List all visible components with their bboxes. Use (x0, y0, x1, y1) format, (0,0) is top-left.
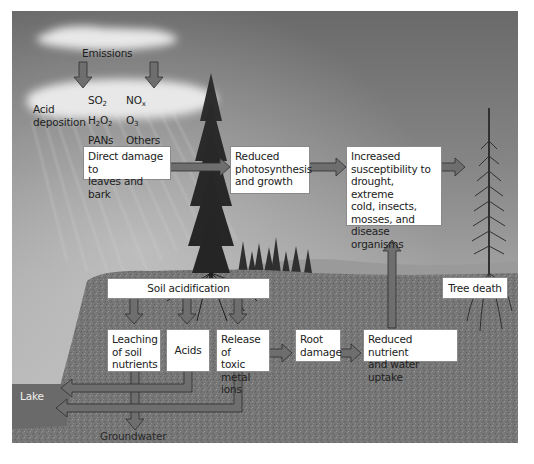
pollutant-pans: PANs (88, 134, 113, 147)
node-increased-susceptibility: Increased susceptibility to drought, ext… (346, 146, 442, 226)
node-root-damage: Root damage (295, 329, 341, 362)
node-reduced-photosynthesis: Reduced photosynthesis and growth (230, 146, 310, 194)
pollutant-so2: SO2 (88, 94, 107, 107)
pollutant-nox: NOx (126, 94, 146, 107)
emissions-label: Emissions (82, 47, 132, 60)
diagram-frame: Emissions Acid deposition SO2 NOx H2O2 O… (12, 11, 518, 443)
node-direct-damage: Direct damage to leaves and bark (83, 146, 171, 180)
pollutant-h2o2: H2O2 (88, 114, 112, 127)
pollutant-others: Others (126, 134, 160, 147)
node-acids: Acids (166, 329, 210, 372)
node-leaching: Leaching of soil nutrients (107, 329, 161, 372)
node-reduced-uptake: Reduced nutrient and water uptake (363, 329, 458, 362)
node-tree-death: Tree death (442, 277, 508, 299)
pollutant-o3: O3 (126, 114, 138, 127)
acid-deposition-label: Acid deposition (33, 103, 86, 128)
groundwater-label: Groundwater (100, 430, 166, 443)
lake-label: Lake (20, 390, 44, 403)
node-release-toxic-metal-ions: Release of toxic metal ions (216, 329, 270, 372)
node-soil-acidification: Soil acidification (107, 278, 270, 299)
